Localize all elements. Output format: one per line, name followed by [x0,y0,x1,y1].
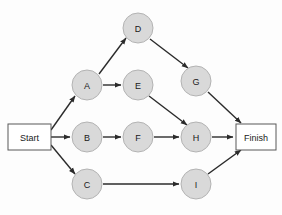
edge-d-to-g [150,39,188,68]
network-diagram-svg: ABCDEFGHIStartFinish [0,0,282,215]
nodes-layer: ABCDEFGHIStartFinish [8,13,276,199]
node-a[interactable]: A [72,70,102,100]
edge-a-to-d [99,38,126,74]
node-label-g: G [192,77,199,87]
terminal-finish[interactable]: Finish [236,124,276,150]
terminal-label-finish: Finish [244,133,268,143]
node-label-f: F [135,133,141,143]
node-label-d: D [135,24,142,34]
edge-g-to-finish [208,92,241,123]
node-label-i: I [195,180,198,190]
terminal-label-start: Start [20,133,40,143]
edge-start-to-c [51,145,75,174]
node-g[interactable]: G [181,66,211,96]
node-i[interactable]: I [181,169,211,199]
network-diagram-canvas: ABCDEFGHIStartFinish [0,0,282,215]
terminal-start[interactable]: Start [8,124,51,150]
edges-layer [51,38,241,184]
node-label-a: A [84,81,90,91]
edge-i-to-finish [208,150,241,174]
node-label-c: C [84,180,91,190]
node-label-h: H [193,133,200,143]
edge-e-to-h [149,96,187,125]
node-b[interactable]: B [72,122,102,152]
node-c[interactable]: C [72,169,102,199]
node-label-b: B [84,133,90,143]
edge-start-to-a [51,96,75,130]
node-h[interactable]: H [181,122,211,152]
node-f[interactable]: F [123,122,153,152]
node-e[interactable]: E [123,70,153,100]
node-d[interactable]: D [123,13,153,43]
node-label-e: E [135,81,141,91]
